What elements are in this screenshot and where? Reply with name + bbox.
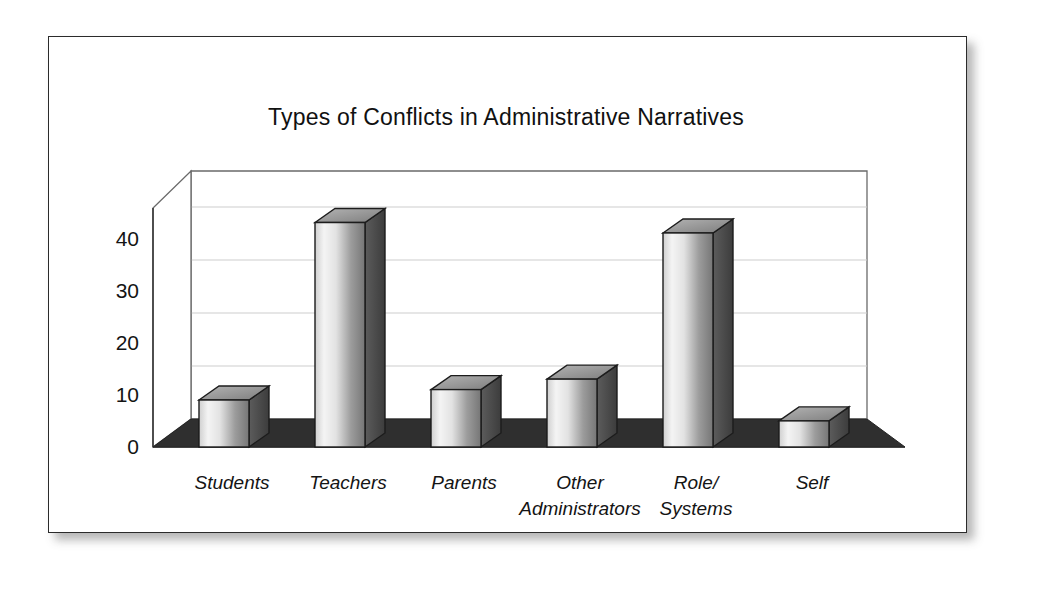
- bar-front-face: [663, 233, 713, 447]
- bar-front-face: [315, 223, 365, 447]
- y-axis-tick-labels: 0 10 20 30 40: [116, 227, 139, 458]
- y-tick-label-20: 20: [116, 331, 139, 354]
- category-label-5-line-1: Role/: [674, 472, 720, 493]
- figure-page: Types of Conflicts in Administrative Nar…: [0, 0, 1060, 593]
- category-label-3-line-1: Parents: [431, 472, 497, 493]
- bar-front-face: [779, 421, 829, 447]
- y-tick-label-10: 10: [116, 383, 139, 406]
- bar-side-face: [365, 209, 385, 447]
- bar-front-face: [547, 379, 597, 447]
- chart-title: Types of Conflicts in Administrative Nar…: [268, 104, 744, 130]
- plot-left-wall: [153, 171, 191, 447]
- bar-chart-3d: Types of Conflicts in Administrative Nar…: [49, 37, 964, 530]
- category-label-6-line-1: Self: [796, 472, 830, 493]
- category-labels: StudentsTeachersParentsOtherAdministrato…: [195, 472, 831, 519]
- figure-frame: Types of Conflicts in Administrative Nar…: [48, 36, 967, 533]
- bar-1: [199, 386, 269, 447]
- y-tick-label-40: 40: [116, 227, 139, 250]
- y-tick-label-0: 0: [127, 435, 139, 458]
- category-label-4-line-1: Other: [556, 472, 604, 493]
- bar-3: [431, 376, 501, 447]
- bar-front-face: [199, 400, 249, 447]
- plot-back-wall: [191, 171, 867, 419]
- y-tick-label-30: 30: [116, 279, 139, 302]
- bar-5: [663, 219, 733, 447]
- category-label-1-line-1: Students: [195, 472, 270, 493]
- bar-2: [315, 209, 385, 447]
- bar-side-face: [713, 219, 733, 447]
- category-label-4-line-2: Administrators: [518, 498, 641, 519]
- bar-6: [779, 407, 849, 447]
- category-label-2-line-1: Teachers: [309, 472, 387, 493]
- category-label-5-line-2: Systems: [660, 498, 733, 519]
- bar-4: [547, 365, 617, 447]
- bar-front-face: [431, 390, 481, 447]
